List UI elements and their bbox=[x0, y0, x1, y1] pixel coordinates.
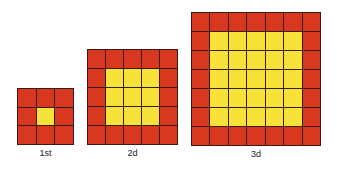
figure-label-second: 2d bbox=[87, 148, 178, 158]
outer-red-cell bbox=[160, 107, 177, 125]
square-figure-second bbox=[87, 49, 178, 145]
outer-red-cell bbox=[303, 127, 320, 145]
outer-red-cell bbox=[192, 51, 209, 69]
outer-red-cell bbox=[160, 88, 177, 106]
inner-yellow-cell bbox=[210, 89, 227, 107]
inner-yellow-cell bbox=[210, 108, 227, 126]
outer-red-cell bbox=[303, 89, 320, 107]
outer-red-cell bbox=[124, 50, 141, 68]
inner-yellow-cell bbox=[266, 70, 283, 88]
inner-yellow-cell bbox=[37, 108, 55, 126]
outer-red-cell bbox=[160, 69, 177, 87]
inner-yellow-cell bbox=[106, 88, 123, 106]
inner-yellow-cell bbox=[247, 70, 264, 88]
outer-red-cell bbox=[303, 51, 320, 69]
inner-yellow-cell bbox=[106, 107, 123, 125]
inner-yellow-cell bbox=[142, 88, 159, 106]
inner-yellow-cell bbox=[284, 51, 301, 69]
inner-yellow-cell bbox=[229, 70, 246, 88]
outer-red-cell bbox=[247, 127, 264, 145]
outer-red-cell bbox=[55, 108, 73, 126]
inner-yellow-cell bbox=[142, 107, 159, 125]
outer-red-cell bbox=[106, 126, 123, 144]
outer-red-cell bbox=[284, 127, 301, 145]
outer-red-cell bbox=[88, 126, 105, 144]
outer-red-cell bbox=[284, 13, 301, 31]
outer-red-cell bbox=[124, 126, 141, 144]
outer-red-cell bbox=[88, 50, 105, 68]
inner-yellow-cell bbox=[124, 107, 141, 125]
outer-red-cell bbox=[55, 126, 73, 144]
inner-yellow-cell bbox=[142, 69, 159, 87]
outer-red-cell bbox=[266, 13, 283, 31]
outer-red-cell bbox=[192, 127, 209, 145]
inner-yellow-cell bbox=[210, 32, 227, 50]
outer-red-cell bbox=[142, 126, 159, 144]
square-figure-third bbox=[191, 12, 321, 146]
outer-red-cell bbox=[160, 50, 177, 68]
outer-red-cell bbox=[210, 127, 227, 145]
outer-red-cell bbox=[142, 50, 159, 68]
outer-red-cell bbox=[192, 89, 209, 107]
inner-yellow-cell bbox=[247, 108, 264, 126]
outer-red-cell bbox=[229, 13, 246, 31]
inner-yellow-cell bbox=[284, 70, 301, 88]
inner-yellow-cell bbox=[266, 108, 283, 126]
inner-yellow-cell bbox=[266, 51, 283, 69]
outer-red-cell bbox=[192, 13, 209, 31]
outer-red-cell bbox=[303, 32, 320, 50]
outer-red-cell bbox=[37, 89, 55, 107]
outer-red-cell bbox=[55, 89, 73, 107]
outer-red-cell bbox=[106, 50, 123, 68]
outer-red-cell bbox=[18, 89, 36, 107]
outer-red-cell bbox=[88, 69, 105, 87]
inner-yellow-cell bbox=[124, 88, 141, 106]
outer-red-cell bbox=[247, 13, 264, 31]
inner-yellow-cell bbox=[284, 32, 301, 50]
inner-yellow-cell bbox=[229, 108, 246, 126]
outer-red-cell bbox=[37, 126, 55, 144]
outer-red-cell bbox=[18, 108, 36, 126]
outer-red-cell bbox=[229, 127, 246, 145]
inner-yellow-cell bbox=[247, 89, 264, 107]
inner-yellow-cell bbox=[266, 89, 283, 107]
outer-red-cell bbox=[303, 70, 320, 88]
outer-red-cell bbox=[160, 126, 177, 144]
inner-yellow-cell bbox=[106, 69, 123, 87]
inner-yellow-cell bbox=[229, 32, 246, 50]
inner-yellow-cell bbox=[284, 108, 301, 126]
inner-yellow-cell bbox=[210, 70, 227, 88]
outer-red-cell bbox=[192, 108, 209, 126]
figure-label-third: 3d bbox=[191, 149, 321, 159]
outer-red-cell bbox=[192, 70, 209, 88]
outer-red-cell bbox=[18, 126, 36, 144]
outer-red-cell bbox=[303, 108, 320, 126]
inner-yellow-cell bbox=[229, 89, 246, 107]
inner-yellow-cell bbox=[124, 69, 141, 87]
inner-yellow-cell bbox=[210, 51, 227, 69]
inner-yellow-cell bbox=[284, 89, 301, 107]
outer-red-cell bbox=[303, 13, 320, 31]
inner-yellow-cell bbox=[247, 32, 264, 50]
outer-red-cell bbox=[266, 127, 283, 145]
outer-red-cell bbox=[210, 13, 227, 31]
inner-yellow-cell bbox=[229, 51, 246, 69]
outer-red-cell bbox=[88, 88, 105, 106]
inner-yellow-cell bbox=[266, 32, 283, 50]
outer-red-cell bbox=[88, 107, 105, 125]
inner-yellow-cell bbox=[247, 51, 264, 69]
figure-label-first: 1st bbox=[17, 148, 74, 158]
square-figure-first bbox=[17, 88, 74, 145]
outer-red-cell bbox=[192, 32, 209, 50]
